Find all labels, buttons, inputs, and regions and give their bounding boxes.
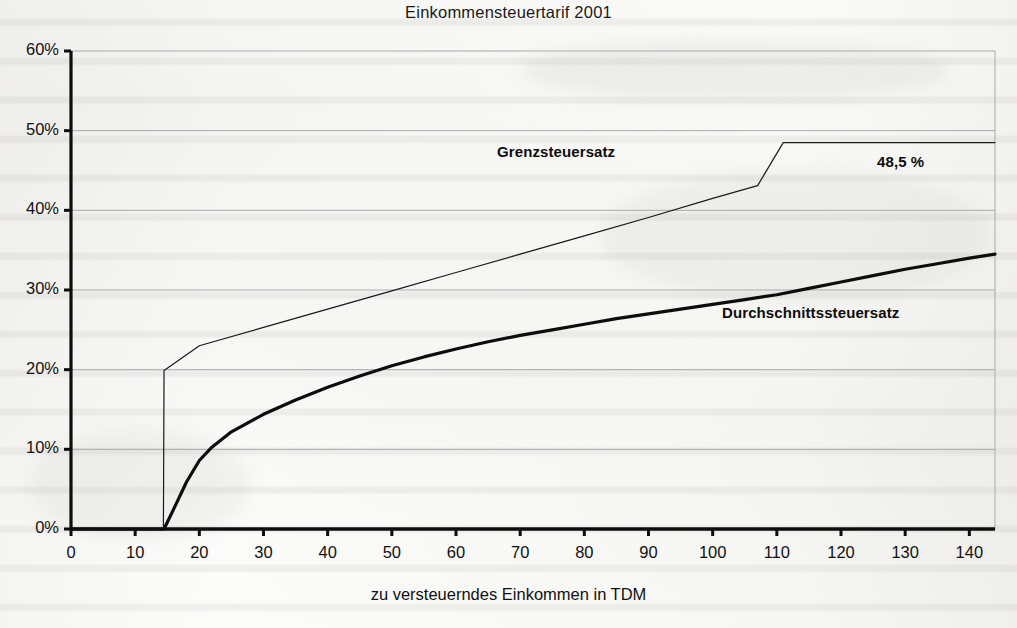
x-tick-label: 30 — [241, 543, 287, 562]
x-tick-label: 90 — [626, 543, 672, 562]
top-marginal-rate-value: 48,5 % — [877, 153, 924, 170]
durchschnittssteuersatz-label: Durchschnittssteuersatz — [722, 304, 899, 321]
x-tick-label: 10 — [112, 543, 158, 562]
x-tick-label: 40 — [305, 543, 351, 562]
grenzsteuersatz-label: Grenzsteuersatz — [497, 143, 615, 160]
x-tick-label: 70 — [497, 543, 543, 562]
gridlines — [71, 51, 995, 529]
y-tick-label: 60% — [3, 40, 59, 59]
x-tick-label: 130 — [882, 543, 928, 562]
y-tick-label: 0% — [3, 518, 59, 537]
y-tick-label: 10% — [3, 438, 59, 457]
x-tick-label: 80 — [561, 543, 607, 562]
y-tick-label: 20% — [3, 359, 59, 378]
tick-marks — [64, 51, 969, 536]
x-tick-label: 0 — [48, 543, 94, 562]
y-tick-label: 50% — [3, 120, 59, 139]
x-axis-title: zu versteuerndes Einkommen in TDM — [0, 585, 1017, 604]
series-line-grenzsteuersatz — [71, 143, 995, 529]
x-tick-label: 140 — [946, 543, 992, 562]
series-line-durchschnittssteuersatz — [71, 254, 995, 529]
y-tick-label: 30% — [3, 279, 59, 298]
chart-page: Einkommensteuertarif 2001 0%10%20%30%40%… — [0, 0, 1017, 628]
x-tick-label: 110 — [754, 543, 800, 562]
x-tick-label: 120 — [818, 543, 864, 562]
series-paths — [71, 143, 995, 529]
y-tick-label: 40% — [3, 199, 59, 218]
x-tick-label: 60 — [433, 543, 479, 562]
x-tick-label: 50 — [369, 543, 415, 562]
x-tick-label: 20 — [176, 543, 222, 562]
x-tick-label: 100 — [690, 543, 736, 562]
